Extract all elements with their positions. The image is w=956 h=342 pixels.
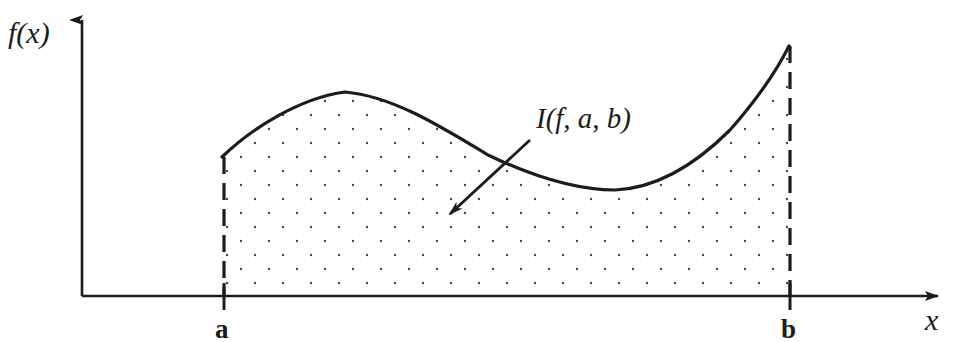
integral-figure: f(x) x I(f, a, b) a b bbox=[0, 0, 956, 342]
x-tick-label-b: b bbox=[781, 316, 796, 342]
x-axis-label: x bbox=[925, 305, 938, 335]
integral-region-label: I(f, a, b) bbox=[536, 104, 631, 133]
figure-canvas bbox=[0, 0, 956, 342]
y-axis-label: f(x) bbox=[8, 18, 50, 48]
shaded-integral-region bbox=[224, 40, 790, 296]
x-tick-label-a: a bbox=[215, 316, 229, 342]
